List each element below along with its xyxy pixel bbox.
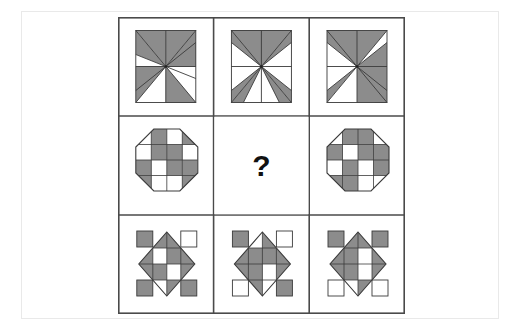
corner-br <box>276 280 292 296</box>
corner-tr <box>276 231 292 247</box>
corner-br <box>181 280 197 296</box>
matrix-grid <box>118 17 405 314</box>
corner-tr <box>181 231 197 247</box>
cell-r2c2-missing[interactable] <box>214 117 308 214</box>
cell-r1c3[interactable] <box>327 31 387 103</box>
cell-r3c3[interactable] <box>327 228 389 300</box>
corner-tl <box>232 231 248 247</box>
cell-r1c2[interactable] <box>231 31 291 103</box>
cell-r1c3-hub <box>356 65 359 68</box>
corner-br <box>372 280 388 296</box>
corner-bl <box>232 280 248 296</box>
cell-r1c1[interactable] <box>136 31 196 103</box>
cell-r2c1[interactable] <box>136 129 198 191</box>
corner-bl <box>328 280 344 296</box>
cell-r3c2[interactable] <box>231 228 293 300</box>
corner-tr <box>372 231 388 247</box>
corner-bl <box>137 280 153 296</box>
cell-r1c1-hub <box>165 65 168 68</box>
cell-r1c2-hub <box>260 65 263 68</box>
cell-r3c1[interactable] <box>136 228 198 300</box>
corner-tl <box>137 231 153 247</box>
corner-tl <box>328 231 344 247</box>
puzzle-canvas: ? <box>0 0 521 331</box>
cell-r2c3[interactable] <box>327 129 389 191</box>
cell-r2c2-plate <box>214 117 308 214</box>
matrix-svg <box>118 17 405 314</box>
